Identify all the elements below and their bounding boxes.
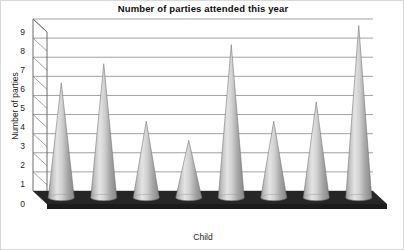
bar-series-cones: [48, 26, 371, 201]
cone-bar: [261, 121, 287, 201]
axis-lines: [33, 19, 47, 204]
cone-bar: [133, 121, 159, 201]
chart-floor: [33, 191, 387, 209]
cone-bar: [176, 140, 202, 201]
cone-bar: [91, 64, 117, 201]
plot-area: [1, 1, 404, 250]
cone-bar: [303, 102, 329, 201]
cone-bar: [218, 45, 244, 201]
cone-bar: [48, 83, 74, 201]
cone-bar: [346, 26, 372, 201]
chart-container: Number of parties attended this year Num…: [0, 0, 404, 250]
